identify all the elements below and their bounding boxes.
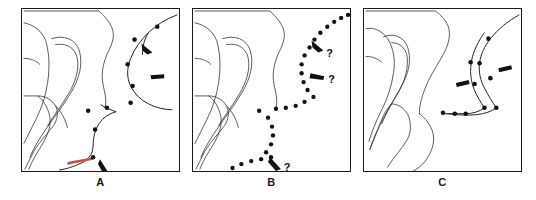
question-mark-1: ? xyxy=(326,47,333,59)
question-mark-labels: ? ? ? xyxy=(284,47,335,171)
panel-b-drawing: ? ? ? xyxy=(193,9,350,171)
traced-boundary-upper xyxy=(128,15,177,110)
background-contours xyxy=(24,11,113,169)
panel-b: ? ? ? xyxy=(192,8,351,172)
traced-boundary-outer xyxy=(447,15,519,115)
panel-c-drawing xyxy=(364,9,521,171)
arrowhead-icon xyxy=(498,65,512,72)
panel-a-drawing xyxy=(22,9,179,171)
point-markers xyxy=(441,36,499,116)
panel-c-caption: C xyxy=(363,176,522,188)
arrowhead-icon xyxy=(311,41,323,53)
arrowhead-icon xyxy=(98,159,108,171)
point-markers xyxy=(86,25,160,160)
arrowhead-icon xyxy=(150,74,164,79)
arrowhead-icon xyxy=(456,80,470,87)
panel-c xyxy=(363,8,522,172)
traced-boundary-inner xyxy=(443,33,484,114)
arrowhead-icon xyxy=(141,44,152,55)
dotted-boundary-lower xyxy=(230,109,275,171)
figure-root: A xyxy=(0,0,536,200)
question-mark-2: ? xyxy=(328,73,335,85)
dotted-boundary-upper xyxy=(274,13,350,111)
background-contours xyxy=(366,11,449,171)
panel-a-caption: A xyxy=(21,176,180,188)
arrowhead-icon xyxy=(310,73,325,80)
question-mark-3: ? xyxy=(284,161,291,171)
arrowhead-icon xyxy=(268,157,281,171)
panel-a xyxy=(21,8,180,172)
arrowhead-markers xyxy=(456,65,512,87)
traced-boundary-lower xyxy=(60,112,116,170)
panel-b-caption: B xyxy=(192,176,351,188)
